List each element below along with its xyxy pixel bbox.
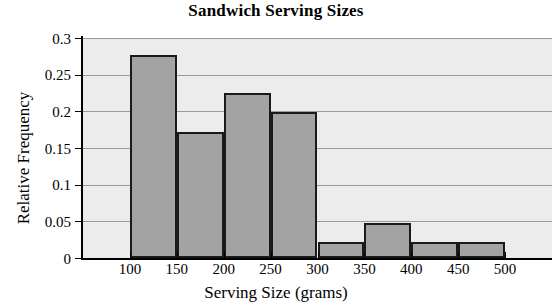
y-tick-label: 0 — [64, 251, 72, 266]
x-tick-label: 400 — [400, 262, 423, 277]
histogram-bar — [177, 132, 224, 258]
histogram-bar — [458, 242, 505, 258]
y-tick: 0.15 — [75, 148, 83, 149]
x-tick-label: 100 — [119, 262, 142, 277]
y-tick: 0.05 — [75, 221, 83, 222]
histogram-bar — [224, 93, 271, 258]
gridline — [83, 38, 552, 39]
x-tick — [505, 252, 506, 260]
chart-title: Sandwich Serving Sizes — [0, 1, 552, 21]
plot-area — [83, 38, 552, 258]
histogram-bar — [411, 242, 458, 258]
y-tick: 0.2 — [75, 111, 83, 112]
x-tick — [271, 252, 272, 260]
x-tick — [318, 252, 319, 260]
x-axis-line — [81, 258, 552, 260]
y-axis-title: Relative Frequency — [14, 48, 34, 268]
histogram-bar — [364, 223, 411, 258]
x-tick-label: 200 — [212, 262, 235, 277]
x-tick — [177, 252, 178, 260]
x-axis-title: Serving Size (grams) — [0, 283, 552, 303]
x-tick-label: 300 — [306, 262, 329, 277]
y-tick-label: 0.1 — [52, 178, 71, 193]
y-tick-label: 0.2 — [52, 104, 71, 119]
x-tick-label: 500 — [494, 262, 517, 277]
y-tick-label: 0.05 — [45, 214, 71, 229]
x-tick — [224, 252, 225, 260]
histogram-bar — [271, 112, 318, 258]
y-tick: 0.25 — [75, 75, 83, 76]
x-tick — [458, 252, 459, 260]
y-tick: 0 — [75, 258, 83, 259]
x-tick — [364, 252, 365, 260]
x-tick-label: 350 — [353, 262, 376, 277]
y-tick-label: 0.15 — [45, 141, 71, 156]
y-tick: 0.1 — [75, 185, 83, 186]
histogram-bar — [318, 242, 365, 258]
x-tick-label: 150 — [166, 262, 189, 277]
histogram-chart: Sandwich Serving Sizes 00.050.10.150.20.… — [0, 0, 552, 308]
x-tick-label: 450 — [447, 262, 470, 277]
y-tick-label: 0.25 — [45, 68, 71, 83]
histogram-bar — [130, 55, 177, 258]
y-tick-label: 0.3 — [52, 31, 71, 46]
y-tick: 0.3 — [75, 38, 83, 39]
x-tick — [130, 252, 131, 260]
x-tick — [411, 252, 412, 260]
x-tick-label: 250 — [259, 262, 282, 277]
